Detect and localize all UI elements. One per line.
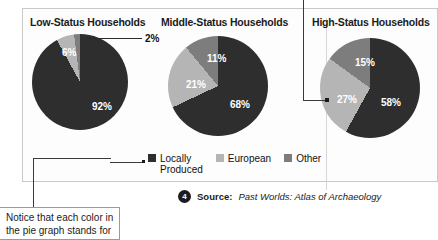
annotation-leader-vertical bbox=[33, 158, 34, 207]
legend-label-european: European bbox=[228, 153, 271, 164]
legend-leader-line bbox=[110, 162, 144, 163]
callout-line-vertical bbox=[303, 0, 304, 100]
leader-line-2-percent bbox=[86, 38, 142, 39]
pie-title-high-status: High-Status Households bbox=[312, 16, 430, 28]
slice-label-middle-locally-produced: 68% bbox=[230, 99, 250, 110]
square-swatch-dark-icon bbox=[148, 154, 156, 162]
pie-chart-high-status bbox=[320, 38, 420, 138]
slice-label-low-locally-produced: 92% bbox=[92, 101, 112, 112]
source-number-badge-icon: 4 bbox=[178, 190, 191, 203]
square-swatch-light-icon bbox=[216, 154, 224, 162]
legend-anchor-dot bbox=[142, 160, 145, 163]
callout-anchor-dot bbox=[325, 98, 329, 102]
legend-item-locally-produced: Locally Produced bbox=[148, 153, 203, 175]
legend-item-european: European bbox=[216, 153, 271, 164]
slice-label-low-other: 2% bbox=[145, 33, 159, 44]
pie-title-middle-status: Middle-Status Households bbox=[161, 16, 288, 28]
callout-line-horizontal bbox=[303, 100, 327, 101]
slice-label-high-locally-produced: 58% bbox=[381, 97, 401, 108]
legend-label-locally-produced: Locally Produced bbox=[160, 153, 203, 175]
source-credit: 4 Source: Past Worlds: Atlas of Archaeol… bbox=[178, 190, 381, 203]
pie-title-low-status: Low-Status Households bbox=[30, 16, 145, 28]
source-title: Past Worlds: Atlas of Archaeology bbox=[238, 191, 381, 202]
slice-label-low-european: 6% bbox=[62, 47, 76, 58]
source-label: Source: bbox=[197, 191, 232, 202]
chart-legend: Locally Produced European Other bbox=[148, 153, 321, 175]
slice-label-high-other: 15% bbox=[355, 57, 375, 68]
annotation-leader-horizontal bbox=[33, 158, 111, 159]
slice-label-middle-european: 21% bbox=[186, 79, 206, 90]
legend-item-other: Other bbox=[284, 153, 321, 164]
pie-chart-low-status bbox=[32, 34, 128, 130]
pie-chart-middle-status bbox=[168, 36, 268, 136]
square-swatch-medium-icon bbox=[284, 154, 292, 162]
annotation-callout-box: Notice that each color in the pie graph … bbox=[0, 207, 120, 240]
legend-label-other: Other bbox=[296, 153, 321, 164]
slice-label-middle-other: 11% bbox=[207, 53, 226, 64]
slice-label-high-european: 27% bbox=[337, 94, 357, 105]
